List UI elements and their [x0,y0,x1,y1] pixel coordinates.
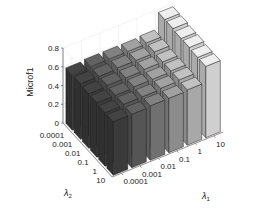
bar [162,85,183,152]
bar-side-face [99,106,105,167]
x-tick [121,173,123,175]
x-axis-label: λ1 [201,191,210,202]
x-tick [214,136,216,138]
z-tick-label: 0 [55,119,60,128]
bar-front-face [169,93,184,153]
y-tick-label: 10 [96,176,105,185]
bar-side-face [91,96,97,157]
x-tick-label: 0.1 [179,155,191,164]
bar-front-face [113,116,128,175]
bar3d-chart: 00.20.40.60.80.00010.0010.010.11100.0001… [0,0,262,213]
bar [181,77,202,145]
x-tick [195,143,197,145]
bar-side-face [82,87,88,148]
bar [144,93,165,160]
x-tick [177,151,179,153]
bar-side-face [66,68,72,130]
bar-front-face [150,100,165,160]
bar [107,109,128,175]
bar-side-face [74,77,80,139]
x-tick-label: 1 [197,147,202,156]
z-tick-label: 0.6 [48,63,60,72]
bar-front-face [187,84,202,145]
z-tick-label: 0.2 [48,100,60,109]
y-tick-label: 0.01 [65,149,81,158]
z-tick-label: 0.8 [48,44,60,53]
z-axis-label: Microf1 [25,67,35,97]
y-tick-label: 0.001 [52,140,73,149]
bar-front-face [206,61,221,138]
x-tick-label: 0.01 [160,162,176,171]
y-tick-label: 0.0001 [40,131,65,140]
bar [125,101,146,167]
bar-front-face [132,108,147,167]
x-tick [158,158,160,160]
y-tick-label: 0.1 [78,158,90,167]
y-tick-label: 1 [92,167,97,176]
bar [199,54,220,138]
bar-side-face [107,115,113,176]
x-tick [140,166,142,168]
z-tick-label: 0.4 [48,82,60,91]
x-tick-label: 10 [216,140,225,149]
y-axis-label: λ2 [63,188,72,199]
x-tick-label: 0.001 [142,170,163,179]
